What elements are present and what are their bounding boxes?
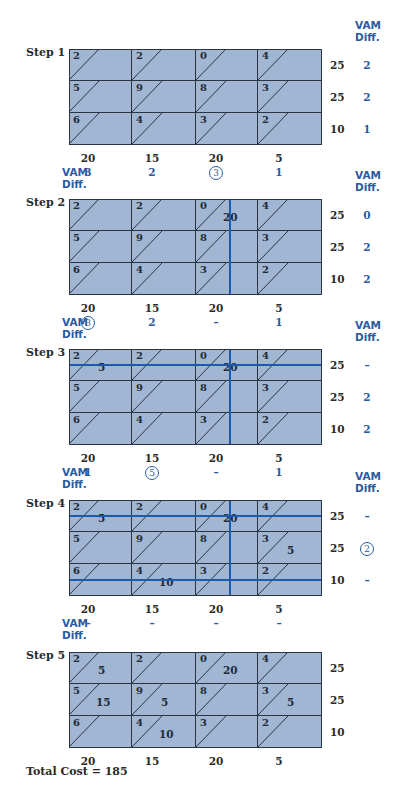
grid-cell: 8 [196, 81, 258, 113]
circled-max-diff-icon: 3 [209, 166, 223, 180]
cell-cost: 6 [73, 264, 80, 275]
total-cost: Total Cost = 185 [26, 765, 128, 778]
cell-cost: 2 [262, 264, 269, 275]
cell-cost: 2 [262, 717, 269, 728]
vam-line2: Diff. [62, 178, 88, 190]
row-vam-diff: – [352, 574, 382, 586]
cell-cost: 8 [200, 232, 207, 243]
row-vam-header: VAMDiff. [355, 319, 381, 343]
row-strike-line [70, 515, 321, 517]
row-vam-diff: – [352, 359, 382, 371]
vam-line1: VAM [355, 319, 381, 331]
grid-cell: 8 [196, 532, 258, 564]
cell-cost: 2 [136, 50, 143, 61]
grid-cell: 4 [258, 49, 322, 81]
column-vam-header: VAMDiff. [62, 166, 88, 190]
cell-allocation: 5 [98, 361, 105, 373]
row-vam-header: VAMDiff. [355, 19, 381, 43]
row-vam-diff: 2 [352, 391, 382, 403]
cell-cost: 2 [136, 653, 143, 664]
cell-cost: 5 [73, 82, 80, 93]
cell-cost: 3 [200, 717, 207, 728]
cell-cost: 3 [262, 382, 269, 393]
cell-cost: 0 [200, 653, 207, 664]
grid-cell: 2 [258, 413, 322, 445]
demand-value: 20 [201, 302, 231, 314]
cell-cost: 9 [136, 382, 143, 393]
grid-cell: 3 [258, 81, 322, 113]
grid-cell: 4 [132, 413, 196, 445]
column-vam-diff: – [264, 617, 294, 629]
supply-value: 10 [330, 123, 345, 135]
transport-grid: 220459836432 [69, 49, 322, 145]
row-vam-diff: 0 [352, 209, 382, 221]
cell-allocation: 5 [161, 696, 168, 708]
cell-cost: 2 [136, 350, 143, 361]
cell-cost: 3 [200, 264, 207, 275]
grid-cell: 8 [196, 381, 258, 413]
grid-cell: 3 [196, 413, 258, 445]
vam-line1: VAM [355, 19, 381, 31]
grid-cell: 95 [132, 684, 196, 716]
grid-cell: 4 [132, 113, 196, 145]
cell-cost: 2 [262, 414, 269, 425]
cell-allocation: 5 [98, 664, 105, 676]
cell-cost: 0 [200, 350, 207, 361]
vam-line1: VAM [62, 617, 88, 629]
row-vam-diff: 2 [352, 273, 382, 285]
grid-cell: 020 [196, 199, 258, 231]
grid-cell: 2 [258, 716, 322, 748]
cell-cost: 6 [73, 565, 80, 576]
supply-value: 25 [330, 391, 345, 403]
row-vam-diff: 2 [352, 59, 382, 71]
column-strike-line [229, 501, 231, 595]
grid-cell: 35 [258, 532, 322, 564]
column-vam-diff: 2 [137, 166, 167, 178]
cell-allocation: 5 [287, 696, 294, 708]
cell-cost: 5 [73, 533, 80, 544]
transport-grid: 22020459836432 [69, 199, 322, 295]
step-label: Step 3 [26, 346, 65, 359]
cell-cost: 3 [262, 232, 269, 243]
grid-cell: 4 [258, 652, 322, 684]
grid-cell: 2 [132, 652, 196, 684]
grid-cell: 4 [132, 263, 196, 295]
circled-max-diff-icon: 2 [360, 542, 374, 556]
column-vam-header: VAMDiff. [62, 617, 88, 641]
row-strike-line [70, 579, 321, 581]
demand-value: 20 [201, 452, 231, 464]
demand-value: 20 [73, 452, 103, 464]
supply-value: 10 [330, 574, 345, 586]
supply-value: 25 [330, 542, 345, 554]
demand-value: 20 [73, 152, 103, 164]
column-vam-header: VAMDiff. [62, 316, 88, 340]
vam-line2: Diff. [62, 328, 88, 340]
row-vam-diff: 2 [352, 91, 382, 103]
row-vam-diff: 2 [352, 423, 382, 435]
demand-value: 5 [264, 755, 294, 767]
row-vam-diff: 2 [352, 241, 382, 253]
demand-value: 5 [264, 302, 294, 314]
row-vam-diff: 2 [352, 542, 382, 556]
cell-cost: 2 [262, 114, 269, 125]
grid-cell: 35 [258, 684, 322, 716]
grid-cell: 3 [258, 381, 322, 413]
cell-cost: 4 [136, 114, 143, 125]
cell-cost: 3 [200, 114, 207, 125]
cell-cost: 2 [73, 653, 80, 664]
demand-value: 5 [264, 603, 294, 615]
step-label: Step 1 [26, 46, 65, 59]
demand-value: 20 [73, 302, 103, 314]
cell-cost: 3 [262, 82, 269, 93]
vam-line2: Diff. [355, 181, 381, 193]
grid-cell: 9 [132, 231, 196, 263]
cell-cost: 4 [262, 501, 269, 512]
cell-allocation: 10 [159, 728, 174, 740]
grid-cell: 6 [69, 413, 132, 445]
demand-value: 15 [137, 152, 167, 164]
supply-value: 25 [330, 241, 345, 253]
column-vam-header: VAMDiff. [62, 466, 88, 490]
cell-cost: 3 [200, 565, 207, 576]
step-label: Step 2 [26, 196, 65, 209]
supply-value: 25 [330, 209, 345, 221]
